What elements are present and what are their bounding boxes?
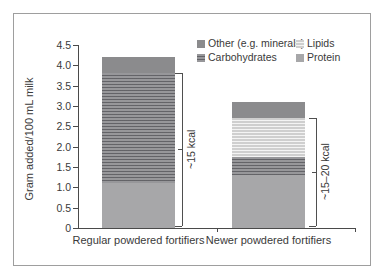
y-tick-label: 3.5 [37, 80, 71, 92]
x-tick-mark [355, 228, 356, 232]
y-tick-mark [73, 106, 78, 107]
legend-item-protein: Protein [296, 51, 340, 64]
legend-item-other: Other (e.g. minerals) [197, 37, 296, 50]
legend-item-carbohydrates: Carbohydrates [197, 51, 296, 64]
bracket-nub [312, 172, 316, 173]
y-tick-mark [73, 126, 78, 127]
bar-segment-other [232, 102, 305, 118]
x-tick-mark [217, 228, 218, 232]
legend-swatch-other [197, 40, 205, 48]
y-tick-label: 2.5 [37, 120, 71, 132]
y-tick-label: 4.5 [37, 39, 71, 51]
bracket-line [316, 118, 317, 226]
y-tick-label: 4.0 [37, 59, 71, 71]
bar-segment-protein [102, 183, 175, 228]
legend-label: Carbohydrates [208, 51, 277, 64]
y-axis-title: Gram added/100 mL milk [23, 77, 35, 200]
bar-segment-protein [232, 175, 305, 228]
y-tick-mark [73, 208, 78, 209]
legend-item-lipids: Lipids [296, 37, 340, 50]
legend-label: Protein [307, 51, 340, 64]
x-category-label: Newer powdered fortifiers [188, 234, 350, 247]
bracket-kcal-label: ~15 kcal [184, 89, 198, 209]
bracket-arm-bottom [175, 226, 182, 227]
y-tick-mark [73, 167, 78, 168]
bracket-kcal-label: ~15–20 kcal [318, 112, 332, 232]
bar-segment-carbohydrates [102, 73, 175, 183]
y-tick-mark [73, 45, 78, 46]
y-tick-mark [73, 147, 78, 148]
y-tick-mark [73, 86, 78, 87]
y-tick-label: 3.0 [37, 100, 71, 112]
legend-swatch-protein [296, 54, 304, 62]
legend: Other (e.g. minerals)LipidsCarbohydrates… [197, 37, 340, 64]
legend-label: Lipids [307, 37, 334, 50]
bracket-line [182, 73, 183, 226]
y-tick-mark [73, 187, 78, 188]
y-tick-label: 0.5 [37, 202, 71, 214]
legend-swatch-carbohydrates [197, 54, 205, 62]
bracket-nub [178, 149, 182, 150]
y-tick-label: 1.5 [37, 161, 71, 173]
legend-label: Other (e.g. minerals) [208, 37, 304, 50]
y-tick-mark [73, 228, 78, 229]
y-tick-label: 1.0 [37, 181, 71, 193]
legend-swatch-lipids [296, 40, 304, 48]
y-tick-label: 2.0 [37, 141, 71, 153]
bar-segment-lipids [232, 118, 305, 157]
y-axis-line [78, 45, 79, 229]
y-tick-label: 0 [37, 222, 71, 234]
figure: 00.51.01.52.02.53.03.54.04.5Regular powd… [0, 0, 383, 278]
bracket-arm-bottom [309, 226, 316, 227]
y-tick-mark [73, 65, 78, 66]
bracket-arm-top [309, 118, 316, 119]
bracket-arm-top [175, 73, 182, 74]
bar-segment-other [102, 57, 175, 73]
bar-segment-carbohydrates [232, 157, 305, 175]
